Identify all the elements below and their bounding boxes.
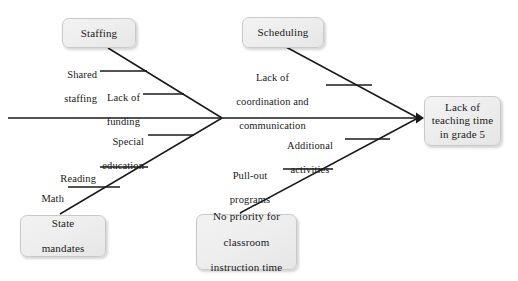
cause-line: Additional [287, 140, 333, 151]
effect-label-line: teaching time [432, 114, 494, 126]
cause-label-additional-activities: Additional activities [279, 128, 341, 176]
category-label-no-priority: No priority for classroom instruction ti… [211, 210, 283, 275]
cause-line: education [102, 160, 144, 171]
category-box-staffing[interactable]: Staffing [62, 18, 136, 48]
cause-line: Shared [67, 69, 97, 80]
cause-line: coordination and [236, 96, 308, 107]
category-label-staffing: Staffing [81, 27, 117, 40]
cause-line: Lack of [256, 72, 289, 83]
cause-line: activities [291, 164, 330, 175]
cause-line: Pull-out [233, 170, 268, 181]
category-label-line: instruction time [211, 261, 283, 274]
category-label-scheduling: Scheduling [258, 26, 309, 39]
cause-line: Lack of [107, 92, 140, 103]
category-box-scheduling[interactable]: Scheduling [242, 17, 324, 48]
cause-label-pull-out-programs: Pull-out programs [221, 158, 279, 206]
cause-line: Math [41, 193, 64, 204]
effect-label-line: in grade 5 [440, 128, 485, 140]
category-label-line: State [42, 217, 85, 230]
fishbone-diagram: Staffing Scheduling State mandates No pr… [0, 0, 518, 281]
category-label-state-mandates: State mandates [42, 217, 85, 256]
cause-line: Reading [60, 173, 96, 184]
category-label-line: classroom [211, 236, 283, 249]
cause-label-special-education: Special education [88, 124, 144, 172]
effect-label: Lack of teaching time in grade 5 [432, 101, 494, 141]
spine-arrowhead [416, 113, 424, 124]
cause-label-lack-of-funding: Lack of funding [84, 80, 140, 128]
effect-box[interactable]: Lack of teaching time in grade 5 [424, 96, 501, 146]
effect-label-line: Lack of [445, 101, 480, 113]
cause-label-lack-of-coordination: Lack of coordination and communication [222, 60, 323, 132]
category-box-no-priority[interactable]: No priority for classroom instruction ti… [196, 214, 297, 270]
category-label-line: No priority for [211, 210, 283, 223]
category-label-line: mandates [42, 242, 85, 255]
cause-label-math: Math [20, 181, 64, 205]
category-box-state-mandates[interactable]: State mandates [20, 215, 106, 257]
cause-line: programs [230, 194, 270, 205]
cause-line: Special [112, 136, 144, 147]
